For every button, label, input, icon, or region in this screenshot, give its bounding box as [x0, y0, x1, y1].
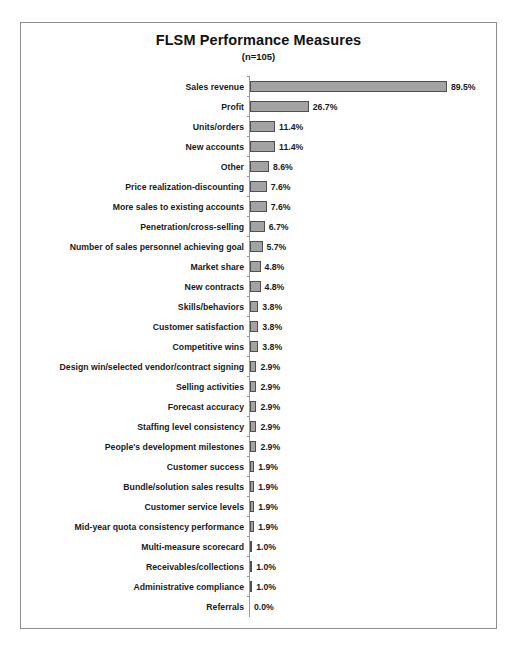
- category-label: Design win/selected vendor/contract sign…: [21, 362, 249, 372]
- category-label: Competitive wins: [21, 342, 249, 352]
- bar: [250, 581, 252, 592]
- scan-edge-artifact: [0, 0, 516, 14]
- bar-value-label: 2.9%: [260, 362, 280, 372]
- category-label: Multi-measure scorecard: [21, 542, 249, 552]
- category-label: People's development milestones: [21, 442, 249, 452]
- bar: [250, 401, 256, 412]
- bar-row: Selling activities2.9%: [21, 377, 496, 397]
- category-label: Units/orders: [21, 122, 249, 132]
- bar-track: 7.6%: [249, 197, 496, 217]
- bar: [250, 481, 254, 492]
- bar-value-label: 11.4%: [279, 122, 303, 132]
- bar: [250, 461, 254, 472]
- category-label: Referrals: [21, 602, 249, 612]
- chart-figure-frame: FLSM Performance Measures (n=105) Sales …: [20, 22, 497, 629]
- bar-row: Price realization-discounting7.6%: [21, 177, 496, 197]
- bar-value-label: 4.8%: [265, 262, 285, 272]
- bar-row: People's development milestones2.9%: [21, 437, 496, 457]
- bar: [250, 101, 309, 112]
- category-label: Forecast accuracy: [21, 402, 249, 412]
- category-label: Sales revenue: [21, 82, 249, 92]
- bar-value-label: 26.7%: [313, 102, 338, 112]
- bar: [250, 361, 256, 372]
- bar: [250, 121, 275, 132]
- bar: [250, 421, 256, 432]
- bar-chart-plot-area: Sales revenue89.5%Profit26.7%Units/order…: [21, 77, 496, 617]
- bar-row: Customer success1.9%: [21, 457, 496, 477]
- category-label: Staffing level consistency: [21, 422, 249, 432]
- bar-value-label: 0.0%: [254, 602, 274, 612]
- category-label: Customer service levels: [21, 502, 249, 512]
- bar-value-label: 2.9%: [260, 402, 280, 412]
- category-label: Market share: [21, 262, 249, 272]
- bar-track: 1.0%: [249, 537, 496, 557]
- bar-row: Referrals0.0%: [21, 597, 496, 617]
- bar: [250, 141, 275, 152]
- bar-value-label: 2.9%: [260, 442, 280, 452]
- bar-row: More sales to existing accounts7.6%: [21, 197, 496, 217]
- bar-row: Forecast accuracy2.9%: [21, 397, 496, 417]
- bar-row: Market share4.8%: [21, 257, 496, 277]
- bar-track: 7.6%: [249, 177, 496, 197]
- bar-value-label: 89.5%: [451, 82, 476, 92]
- bar-row: Units/orders11.4%: [21, 117, 496, 137]
- bar-row: Multi-measure scorecard1.0%: [21, 537, 496, 557]
- bar: [250, 261, 261, 272]
- bar: [250, 221, 265, 232]
- category-label: Bundle/solution sales results: [21, 482, 249, 492]
- bar: [250, 321, 258, 332]
- bar-value-label: 11.4%: [279, 142, 303, 152]
- bar: [250, 281, 261, 292]
- bar-value-label: 7.6%: [271, 202, 291, 212]
- bar-row: Design win/selected vendor/contract sign…: [21, 357, 496, 377]
- bar-row: New contracts4.8%: [21, 277, 496, 297]
- bar: [250, 381, 256, 392]
- bar: [250, 201, 267, 212]
- bar-row: Administrative compliance1.0%: [21, 577, 496, 597]
- bar-row: Sales revenue89.5%: [21, 77, 496, 97]
- bar-value-label: 3.8%: [262, 322, 282, 332]
- bar-row: Other8.6%: [21, 157, 496, 177]
- bar-row: Customer satisfaction3.8%: [21, 317, 496, 337]
- bar: [250, 301, 258, 312]
- bar-value-label: 1.0%: [256, 582, 276, 592]
- bar: [250, 181, 267, 192]
- bar-track: 3.8%: [249, 297, 496, 317]
- bar-track: 2.9%: [249, 357, 496, 377]
- bar-track: 1.9%: [249, 477, 496, 497]
- category-label: Skills/behaviors: [21, 302, 249, 312]
- bar-value-label: 3.8%: [262, 302, 282, 312]
- chart-subtitle: (n=105): [21, 50, 496, 64]
- category-label: Number of sales personnel achieving goal: [21, 242, 249, 252]
- bar-track: 1.9%: [249, 517, 496, 537]
- bar-track: 1.9%: [249, 497, 496, 517]
- bar: [250, 541, 252, 552]
- bar-row: Profit26.7%: [21, 97, 496, 117]
- bar-track: 2.9%: [249, 437, 496, 457]
- category-label: Other: [21, 162, 249, 172]
- category-label: Customer success: [21, 462, 249, 472]
- bar-track: 1.0%: [249, 557, 496, 577]
- chart-title: FLSM Performance Measures: [21, 31, 496, 49]
- bar-track: 1.9%: [249, 457, 496, 477]
- bar-row: Mid-year quota consistency performance1.…: [21, 517, 496, 537]
- bar: [250, 521, 254, 532]
- bar-row: Bundle/solution sales results1.9%: [21, 477, 496, 497]
- category-label: New contracts: [21, 282, 249, 292]
- bar-value-label: 2.9%: [260, 382, 280, 392]
- chart-title-block: FLSM Performance Measures (n=105): [21, 31, 496, 64]
- bar-value-label: 1.9%: [258, 462, 278, 472]
- bar-value-label: 1.9%: [258, 502, 278, 512]
- category-label: Penetration/cross-selling: [21, 222, 249, 232]
- category-label: Price realization-discounting: [21, 182, 249, 192]
- bar: [250, 501, 254, 512]
- bar-value-label: 5.7%: [267, 242, 287, 252]
- bar-track: 0.0%: [249, 597, 496, 617]
- bar-track: 2.9%: [249, 377, 496, 397]
- bar: [250, 441, 256, 452]
- bar-value-label: 4.8%: [265, 282, 285, 292]
- category-label: Customer satisfaction: [21, 322, 249, 332]
- bar-value-label: 6.7%: [269, 222, 289, 232]
- bar-value-label: 1.9%: [258, 482, 278, 492]
- bar-row: Penetration/cross-selling6.7%: [21, 217, 496, 237]
